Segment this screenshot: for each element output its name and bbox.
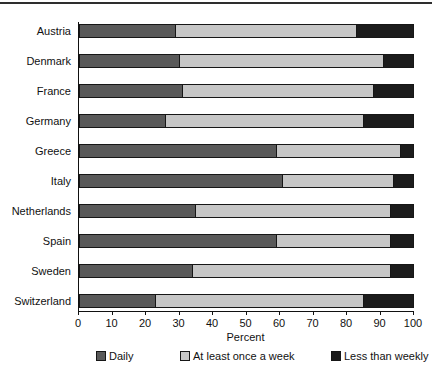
legend-label-daily: Daily	[109, 350, 133, 362]
bar-segment-at-least-once-a-week	[156, 294, 364, 308]
bar-segment-daily	[79, 204, 196, 218]
bar-segment-less-than-weekly	[364, 114, 414, 128]
bar-segment-less-than-weekly	[374, 84, 414, 98]
less-than-weekly-swatch-icon	[331, 351, 341, 361]
x-tick-mark	[413, 311, 414, 315]
category-label: Switzerland	[0, 294, 71, 308]
bar-segment-less-than-weekly	[364, 294, 414, 308]
bar-segment-less-than-weekly	[401, 144, 414, 158]
legend-item-daily: Daily	[96, 349, 133, 362]
x-tick-label: 10	[95, 317, 129, 329]
bar-segment-at-least-once-a-week	[277, 234, 391, 248]
x-tick-label: 70	[296, 317, 330, 329]
category-label: Sweden	[0, 264, 71, 278]
bar-segment-less-than-weekly	[394, 174, 414, 188]
category-label: France	[0, 84, 71, 98]
x-tick-mark	[112, 311, 113, 315]
x-tick-mark	[212, 311, 213, 315]
bar-row	[79, 294, 414, 308]
bar-segment-daily	[79, 294, 156, 308]
category-label: Spain	[0, 234, 71, 248]
bar-segment-daily	[79, 264, 193, 278]
daily-swatch-icon	[96, 351, 106, 361]
x-tick-label: 90	[363, 317, 397, 329]
bar-segment-less-than-weekly	[357, 24, 414, 38]
bar-segment-less-than-weekly	[391, 264, 414, 278]
bar-segment-at-least-once-a-week	[180, 54, 384, 68]
bar-row	[79, 204, 414, 218]
x-tick-mark	[313, 311, 314, 315]
category-axis-labels: AustriaDenmarkFranceGermanyGreeceItalyNe…	[0, 22, 71, 311]
bar-segment-at-least-once-a-week	[176, 24, 357, 38]
bar-segment-at-least-once-a-week	[277, 144, 401, 158]
legend-label-weekly: At least once a week	[193, 350, 295, 362]
x-tick-label: 30	[162, 317, 196, 329]
category-label: Germany	[0, 114, 71, 128]
bar-segment-at-least-once-a-week	[183, 84, 374, 98]
bar-row	[79, 24, 414, 38]
bar-segment-less-than-weekly	[391, 204, 414, 218]
bar-segment-less-than-weekly	[391, 234, 414, 248]
category-label: Denmark	[0, 54, 71, 68]
x-tick-label: 50	[229, 317, 263, 329]
bar-row	[79, 114, 414, 128]
bar-row	[79, 264, 414, 278]
category-label: Austria	[0, 24, 71, 38]
x-tick-mark	[179, 311, 180, 315]
x-tick-mark	[246, 311, 247, 315]
x-tick-label: 0	[61, 317, 95, 329]
legend-label-less-than-weekly: Less than weekly	[344, 350, 428, 362]
category-label: Greece	[0, 144, 71, 158]
bar-segment-less-than-weekly	[384, 54, 414, 68]
bar-row	[79, 54, 414, 68]
bar-row	[79, 174, 414, 188]
bar-segment-daily	[79, 234, 277, 248]
x-tick-mark	[145, 311, 146, 315]
x-tick-label: 20	[128, 317, 162, 329]
legend-item-weekly: At least once a week	[180, 349, 295, 362]
x-tick-label: 40	[195, 317, 229, 329]
bar-segment-at-least-once-a-week	[193, 264, 391, 278]
weekly-swatch-icon	[180, 351, 190, 361]
x-tick-mark	[346, 311, 347, 315]
category-label: Italy	[0, 174, 71, 188]
x-tick-label: 60	[262, 317, 296, 329]
bar-segment-daily	[79, 144, 277, 158]
top-rule-divider	[0, 2, 432, 4]
x-tick-mark	[279, 311, 280, 315]
x-axis-title: Percent	[78, 331, 413, 343]
x-tick-label: 80	[329, 317, 363, 329]
bar-segment-daily	[79, 54, 180, 68]
bar-segment-at-least-once-a-week	[283, 174, 394, 188]
x-tick-label: 100	[396, 317, 430, 329]
bar-row	[79, 84, 414, 98]
bar-segment-daily	[79, 174, 283, 188]
x-tick-mark	[380, 311, 381, 315]
bar-segment-daily	[79, 24, 176, 38]
legend-item-less-than-weekly: Less than weekly	[331, 349, 428, 362]
bar-segment-daily	[79, 84, 183, 98]
bar-segment-at-least-once-a-week	[166, 114, 364, 128]
category-label: Netherlands	[0, 204, 71, 218]
bar-segment-at-least-once-a-week	[196, 204, 390, 218]
bar-row	[79, 144, 414, 158]
legend: Daily At least once a week Less than wee…	[0, 349, 432, 363]
plot-area	[78, 22, 414, 312]
bar-segment-daily	[79, 114, 166, 128]
bar-row	[79, 234, 414, 248]
stacked-bar-chart-figure: AustriaDenmarkFranceGermanyGreeceItalyNe…	[0, 0, 432, 381]
x-tick-mark	[78, 311, 79, 315]
